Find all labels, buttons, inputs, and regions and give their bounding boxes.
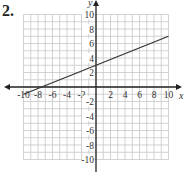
x-tick-label: -8 [34,90,42,100]
x-tick-label: 10 [164,90,174,100]
x-tick-label: 8 [152,90,157,100]
y-tick-label: -6 [86,126,94,136]
x-tick-label: -6 [49,90,57,100]
y-tick-label: 10 [85,10,95,20]
x-tick-label: 2 [108,90,113,100]
y-axis-label: y [87,0,93,8]
y-tick-label: 4 [89,54,94,64]
x-axis-label: x [178,90,184,101]
x-axis-left-arrow-icon [4,84,10,90]
y-tick-label: -8 [86,141,94,151]
x-tick-label: -4 [63,90,71,100]
x-tick-label: -10 [17,90,30,100]
y-tick-label: -10 [81,155,94,165]
y-axis-arrow-icon [93,0,99,6]
y-tick-label: 2 [89,68,94,78]
y-tick-label: 8 [89,25,94,35]
y-tick-label: -2 [86,97,94,107]
y-tick-label: -4 [86,112,94,122]
coordinate-plane: -10-8-6-4-2246810108642-2-4-6-8-10xy [0,0,186,174]
y-tick-label: 6 [89,39,94,49]
x-tick-label: 6 [137,90,142,100]
x-tick-label: 4 [123,90,128,100]
